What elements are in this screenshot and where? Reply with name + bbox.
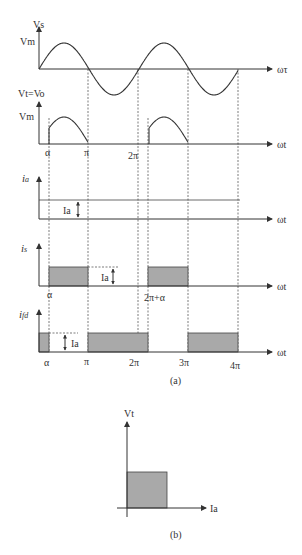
ifd-tick-4pi: 4π [230,360,240,371]
ia-plot: ia Ia ωt [22,172,287,225]
vt-pulse-2 [149,117,188,144]
is-plot: is Ia ωt α 2π+α [21,242,287,303]
is-y-label: is [21,242,27,254]
converter-waveform-diagram: Vs Vm ωτ Vt=Vo Vm ωt α π 2π ia Ia ωt is [0,0,302,555]
vt-pulse-1 [49,117,88,144]
panel-b-x-label: Ia [210,503,218,514]
panel-b-caption: (b) [170,529,182,541]
ifd-tick-pi: π [84,356,89,367]
vs-x-label: ωτ [277,64,288,75]
is-level-label: Ia [101,272,109,283]
is-tick-alpha: α [47,289,53,300]
vs-peak-label: Vm [20,36,35,47]
vt-x-label: ωt [277,139,287,150]
ifd-level-label: Ia [71,338,79,349]
vt-tick-pi: π [84,147,89,158]
guide-lines [49,69,238,352]
vt-tick-2pi: 2π [128,150,138,161]
ifd-tick-2pi: 2π [129,357,139,368]
vs-y-label: Vs [33,19,44,30]
vs-plot: Vs Vm ωτ [20,19,288,95]
panel-b-y-label: Vt [124,408,134,419]
ia-y-label: ia [22,172,29,184]
is-tick-2pi-alpha: 2π+α [144,292,166,303]
is-pulse-1 [49,267,88,286]
panel-b-quadrant-plot: Vt Ia (b) [117,408,218,541]
vt-tick-alpha: α [45,147,51,158]
ifd-tick-alpha: α [44,357,50,368]
ifd-pulse-1 [88,333,148,352]
panel-a-caption: (a) [170,375,181,387]
ia-x-label: ωt [277,214,287,225]
ia-level-label: Ia [63,205,71,216]
vt-y-label: Vt=Vo [18,88,45,99]
ifd-plot: ifd Ia ωt α π 2π 3π 4π [19,308,287,371]
is-x-label: ωt [277,281,287,292]
vt-plot: Vt=Vo Vm ωt α π 2π [18,88,287,161]
ifd-pulse-0 [39,333,49,352]
ifd-tick-3pi: 3π [179,357,189,368]
operating-region [127,472,167,508]
ifd-pulse-2 [188,333,238,352]
is-pulse-2 [148,267,188,286]
vt-peak-label: Vm [19,111,34,122]
ifd-y-label: ifd [19,308,29,320]
ifd-x-label: ωt [277,347,287,358]
